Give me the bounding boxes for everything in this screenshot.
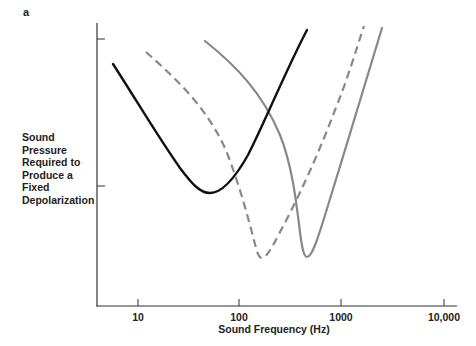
chart-plot (0, 0, 476, 346)
x-tick-label: 10,000 (428, 311, 460, 323)
black-solid-curve (113, 30, 307, 193)
x-tick-label: 1000 (329, 311, 352, 323)
x-tick-label: 10 (132, 311, 144, 323)
x-axis-label: Sound Frequency (Hz) (0, 323, 476, 335)
x-tick-label: 100 (230, 311, 248, 323)
gray-solid-curve (205, 28, 382, 257)
